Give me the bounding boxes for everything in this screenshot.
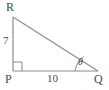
angle-label-theta: θ	[78, 57, 83, 67]
right-angle-marker-icon	[13, 62, 22, 71]
side-length-label-PR: 7	[3, 35, 9, 46]
vertex-label-R: R	[6, 1, 14, 13]
vertex-label-Q: Q	[94, 73, 103, 85]
right-triangle-figure: R P Q 7 10 θ	[0, 0, 109, 90]
side-RQ-hypotenuse	[13, 17, 98, 71]
vertex-label-P: P	[5, 73, 12, 85]
triangle-outline	[13, 17, 98, 71]
side-length-label-PQ: 10	[47, 73, 58, 84]
